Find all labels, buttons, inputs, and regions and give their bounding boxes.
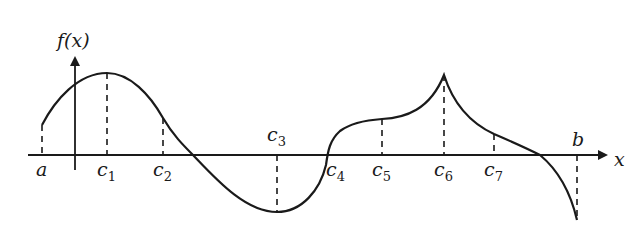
label-c7: c7 [484,158,503,184]
label-c1: c1 [97,158,116,184]
function-curve [42,73,577,220]
label-c6: c6 [434,158,453,184]
label-c5: c5 [372,158,391,184]
function-graph: f(x) x a c1 c2 c3 c4 c5 c6 c7 b [0,0,644,227]
label-c2: c2 [153,158,172,184]
x-axis-label: x [614,148,625,170]
label-a: a [36,158,47,180]
y-axis-label: f(x) [55,29,90,51]
label-c4: c4 [326,158,345,184]
label-c3: c3 [267,123,286,149]
label-b: b [572,128,584,150]
point-labels: a c1 c2 c3 c4 c5 c6 c7 b [36,123,584,184]
